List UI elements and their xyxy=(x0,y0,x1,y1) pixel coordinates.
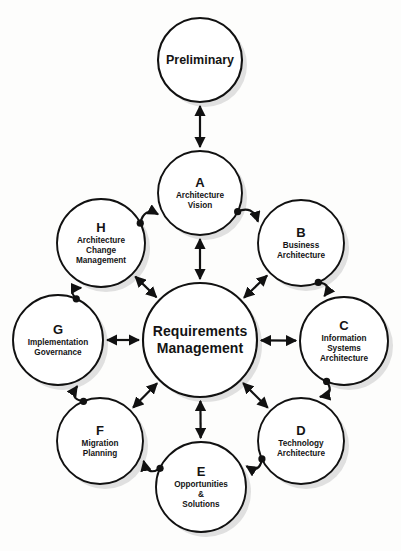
node-circle-d[interactable] xyxy=(258,398,344,484)
edge-origin-dot-e-f xyxy=(156,465,163,472)
node-circle-b[interactable] xyxy=(258,200,344,286)
edge-origin-dot-b-c xyxy=(315,279,322,286)
node-circle-e[interactable] xyxy=(156,442,246,532)
node-circle-h[interactable] xyxy=(57,199,145,287)
adm-diagram-canvas: Preliminary A Architecture Vision B Busi… xyxy=(0,0,401,551)
edge-origin-dot-g-h xyxy=(73,295,80,302)
edge-f-center[interactable] xyxy=(133,383,157,407)
edge-origin-dot-d-e xyxy=(258,455,265,462)
node-circle-g[interactable] xyxy=(13,295,103,385)
node-circle-f[interactable] xyxy=(57,398,143,484)
adm-diagram-svg xyxy=(0,0,401,551)
edge-b-center[interactable] xyxy=(244,276,267,298)
edge-origin-dot-a-b xyxy=(234,208,241,215)
node-circle-a[interactable] xyxy=(158,151,242,235)
node-circle-center[interactable] xyxy=(143,283,257,397)
edge-h-center[interactable] xyxy=(135,277,156,298)
edge-origin-dot-c-d xyxy=(323,378,330,385)
node-circle-preliminary[interactable] xyxy=(158,18,242,102)
edge-origin-dot-f-g xyxy=(80,398,87,405)
node-circle-c[interactable] xyxy=(300,297,388,385)
edge-origin-dot-h-a xyxy=(137,220,144,227)
edge-d-center[interactable] xyxy=(243,383,268,408)
